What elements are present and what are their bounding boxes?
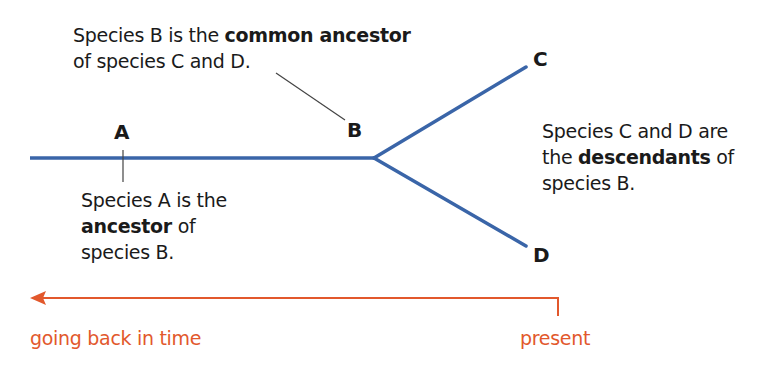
annotation-ancestor: Species A is the ancestor of species B. <box>81 187 227 265</box>
text: Species A is the <box>81 189 227 211</box>
bold-term: ancestor <box>81 215 172 237</box>
bold-term: common ancestor <box>225 24 411 46</box>
bold-term: descendants <box>578 146 711 168</box>
annotation-descendants: Species C and D are the descendants of s… <box>542 118 734 196</box>
node-label-c: C <box>533 47 548 71</box>
node-label-d: D <box>533 243 550 267</box>
branch-b-d <box>374 158 526 246</box>
text: Species B is the <box>73 24 225 46</box>
text: Species C and D are <box>542 120 728 142</box>
node-label-a: A <box>114 120 129 144</box>
node-label-b: B <box>347 118 362 142</box>
text: species B. <box>81 241 174 263</box>
leader-b <box>276 73 345 120</box>
branch-b-c <box>374 67 526 158</box>
text: species B. <box>542 172 635 194</box>
text: the <box>542 146 578 168</box>
annotation-common-ancestor: Species B is the common ancestor of spec… <box>73 22 411 74</box>
timeline-left-label: going back in time <box>30 325 201 351</box>
time-arrow <box>42 298 558 316</box>
timeline-right-label: present <box>520 325 590 351</box>
text: of <box>172 215 195 237</box>
text: of species C and D. <box>73 50 250 72</box>
text: of <box>711 146 734 168</box>
